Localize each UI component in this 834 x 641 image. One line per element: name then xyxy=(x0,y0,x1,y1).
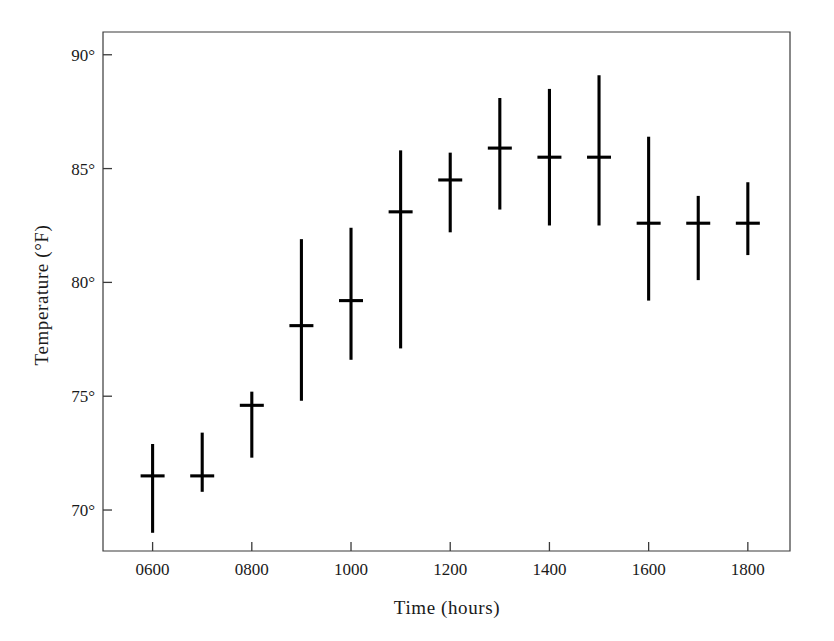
range-marker xyxy=(240,392,264,458)
data-markers xyxy=(141,75,760,533)
x-tick-label: 0800 xyxy=(235,560,269,579)
x-axis-ticks xyxy=(153,542,748,551)
chart-canvas: 70°75°80°85°90° 060008001000120014001600… xyxy=(0,0,834,641)
range-marker xyxy=(389,150,413,348)
x-tick-label: 0600 xyxy=(136,560,170,579)
y-tick-label: 70° xyxy=(71,501,95,520)
x-tick-label: 1000 xyxy=(334,560,368,579)
range-marker xyxy=(736,182,760,255)
axes-frame xyxy=(103,32,790,551)
range-marker xyxy=(537,89,561,226)
x-axis-tick-labels: 0600080010001200140016001800 xyxy=(136,560,765,579)
range-marker xyxy=(686,196,710,280)
range-marker xyxy=(587,75,611,225)
range-marker xyxy=(190,433,214,492)
temperature-range-chart: 70°75°80°85°90° 060008001000120014001600… xyxy=(0,0,834,641)
range-marker xyxy=(339,228,363,360)
x-tick-label: 1200 xyxy=(433,560,467,579)
y-tick-label: 85° xyxy=(71,160,95,179)
range-marker xyxy=(438,153,462,233)
y-tick-label: 75° xyxy=(71,387,95,406)
range-marker xyxy=(488,98,512,210)
y-tick-label: 80° xyxy=(71,273,95,292)
y-axis-ticks xyxy=(103,55,112,510)
x-axis-title: Time (hours) xyxy=(394,597,500,619)
range-marker xyxy=(637,137,661,301)
x-tick-label: 1800 xyxy=(731,560,765,579)
y-tick-label: 90° xyxy=(71,46,95,65)
range-marker xyxy=(141,444,165,533)
x-tick-label: 1400 xyxy=(532,560,566,579)
plot-frame xyxy=(103,32,790,551)
x-tick-label: 1600 xyxy=(632,560,666,579)
range-marker xyxy=(289,239,313,401)
y-axis-tick-labels: 70°75°80°85°90° xyxy=(71,46,95,520)
y-axis-title: Temperature (°F) xyxy=(31,225,53,366)
